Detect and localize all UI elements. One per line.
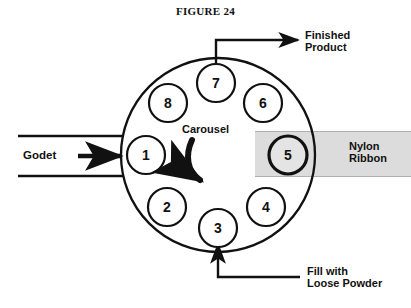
station-8-label: 8: [164, 95, 172, 111]
station-2[interactable]: 2: [148, 188, 186, 226]
figure-container: FIGURE 24: [0, 0, 411, 308]
station-7[interactable]: 7: [197, 64, 235, 102]
carousel-label: Carousel: [182, 123, 229, 135]
station-1-label: 1: [142, 147, 150, 163]
station-5[interactable]: 5: [269, 136, 307, 174]
nylon-ribbon-label: Nylon Ribbon: [349, 140, 387, 164]
station-1[interactable]: 1: [127, 136, 165, 174]
station-3-label: 3: [214, 220, 222, 236]
station-7-label: 7: [212, 75, 220, 91]
station-3[interactable]: 3: [199, 209, 237, 247]
station-4[interactable]: 4: [247, 188, 285, 226]
fill-powder-label: Fill with Loose Powder: [307, 265, 382, 289]
station-8[interactable]: 8: [149, 84, 187, 122]
station-6[interactable]: 6: [244, 84, 282, 122]
godet-label: Godet: [23, 149, 56, 161]
station-2-label: 2: [163, 199, 171, 215]
station-5-label: 5: [284, 147, 292, 163]
station-6-label: 6: [259, 95, 267, 111]
station-4-label: 4: [262, 199, 270, 215]
finished-product-label: Finished Product: [305, 29, 350, 53]
